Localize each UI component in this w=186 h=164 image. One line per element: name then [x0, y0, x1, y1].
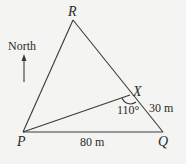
angle-label: 110° [117, 103, 140, 117]
point-label-P: P [16, 134, 26, 149]
point-label-Q: Q [158, 134, 168, 149]
point-label-X: X [132, 84, 142, 99]
north-label: North [8, 39, 36, 53]
length-label-PQ: 80 m [80, 135, 105, 149]
segment-RP [23, 20, 73, 132]
diagram-canvas: North R P Q X 110° 30 m 80 m [0, 0, 186, 164]
length-label-XQ: 30 m [149, 101, 174, 115]
segment-PX [23, 95, 130, 132]
triangle-diagram: North R P Q X 110° 30 m 80 m [0, 0, 186, 164]
north-arrow-icon [22, 54, 27, 61]
point-label-R: R [67, 4, 77, 19]
